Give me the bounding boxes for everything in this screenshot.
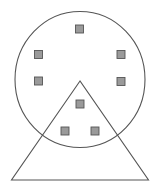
diagram-canvas: [0, 0, 160, 193]
square-upper-right: [117, 51, 125, 59]
squares-group: [35, 25, 126, 135]
square-lower-left-in-triangle: [61, 127, 69, 135]
triangle-shape: [12, 81, 149, 180]
square-mid-right: [117, 78, 125, 86]
square-top: [76, 25, 84, 33]
square-lower-right-in-triangle: [91, 127, 99, 135]
square-upper-left: [35, 51, 43, 59]
circle-triangle-squares-diagram: [0, 0, 160, 193]
square-mid-left: [35, 77, 43, 85]
square-center-in-triangle: [76, 100, 84, 108]
